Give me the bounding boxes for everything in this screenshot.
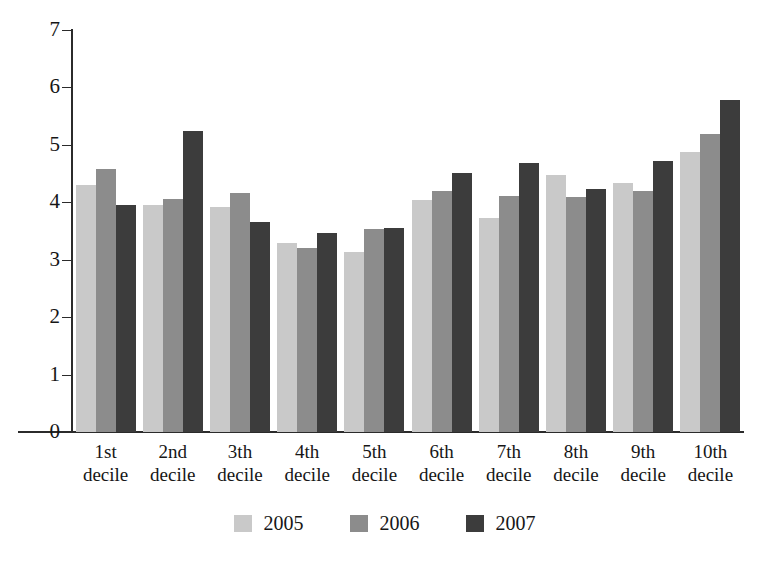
bar-2005-2 (143, 205, 163, 432)
bar-2005-10 (680, 152, 700, 432)
x-axis-label-line: decile (662, 463, 758, 486)
legend-swatch-icon (234, 515, 252, 532)
bar-2005-4 (277, 243, 297, 433)
bar-2007-1 (116, 205, 136, 432)
bar-2006-7 (499, 196, 519, 432)
bar-2007-10 (720, 100, 740, 433)
y-axis-tick-label: 0 (14, 421, 60, 442)
bar-2006-2 (163, 199, 183, 432)
bar-2007-4 (317, 233, 337, 432)
y-axis-tick-label: 4 (14, 191, 60, 212)
bar-2005-3 (210, 207, 230, 432)
bar-2005-1 (76, 185, 96, 432)
bar-2006-1 (96, 169, 116, 432)
bar-2007-2 (183, 131, 203, 432)
y-axis-tick (62, 145, 72, 146)
bar-2006-4 (297, 248, 317, 432)
y-axis-tick (62, 375, 72, 376)
bar-2006-3 (230, 193, 250, 432)
bar-2006-6 (432, 191, 452, 432)
bar-group (613, 30, 673, 432)
plot-area (72, 30, 744, 432)
bar-chart: 76543210 1stdecile2nddecile3thdecile4thd… (0, 0, 769, 564)
x-axis-label-line: 10th (662, 440, 758, 463)
bar-group (412, 30, 472, 432)
bar-group (546, 30, 606, 432)
bar-group (344, 30, 404, 432)
bar-2006-8 (566, 197, 586, 432)
y-axis-tick (62, 30, 72, 31)
legend-label: 2007 (496, 513, 536, 533)
bar-2007-5 (384, 228, 404, 432)
y-axis-tick (62, 432, 72, 433)
bar-2007-6 (452, 173, 472, 432)
bar-2006-9 (633, 191, 653, 432)
bar-group (479, 30, 539, 432)
bar-group (277, 30, 337, 432)
y-axis-tick (62, 202, 72, 203)
y-axis-tick-label: 7 (14, 19, 60, 40)
bar-2007-8 (586, 189, 606, 432)
x-axis-label: 10thdecile (662, 440, 758, 486)
legend-label: 2005 (264, 513, 304, 533)
legend-swatch-icon (350, 515, 368, 532)
y-axis-tick (62, 317, 72, 318)
bar-2007-7 (519, 163, 539, 432)
bar-2007-9 (653, 161, 673, 432)
y-axis-tick-label: 3 (14, 249, 60, 270)
y-axis-tick-label: 2 (14, 306, 60, 327)
bar-2006-10 (700, 134, 720, 432)
bar-2007-3 (250, 222, 270, 432)
legend-item-2005: 2005 (234, 513, 304, 533)
bar-group (210, 30, 270, 432)
bar-2005-5 (344, 252, 364, 432)
y-axis-tick (62, 260, 72, 261)
bar-2005-6 (412, 200, 432, 432)
bar-group (76, 30, 136, 432)
legend-item-2007: 2007 (466, 513, 536, 533)
bar-2005-8 (546, 175, 566, 432)
bar-2005-7 (479, 218, 499, 432)
bar-group (143, 30, 203, 432)
y-axis-tick (62, 87, 72, 88)
legend-label: 2006 (380, 513, 420, 533)
legend-item-2006: 2006 (350, 513, 420, 533)
bar-2006-5 (364, 229, 384, 432)
y-axis-tick-label: 1 (14, 364, 60, 385)
chart-legend: 200520062007 (0, 513, 769, 533)
bar-2005-9 (613, 183, 633, 432)
y-axis-tick-label: 5 (14, 134, 60, 155)
bar-group (680, 30, 740, 432)
legend-swatch-icon (466, 515, 484, 532)
y-axis-tick-label: 6 (14, 76, 60, 97)
